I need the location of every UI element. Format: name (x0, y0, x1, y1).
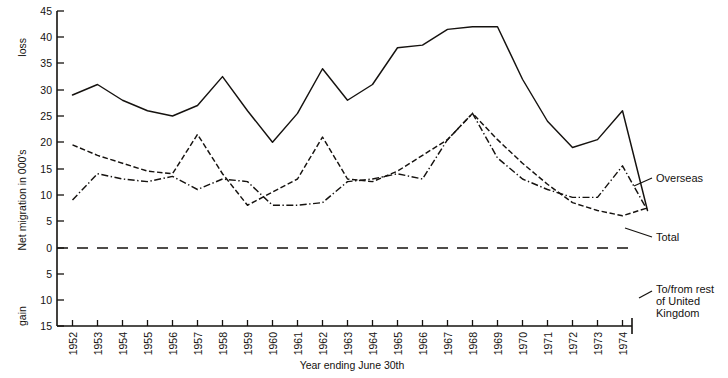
x-tick-label: 1967 (442, 332, 454, 356)
x-tick-label: 1966 (417, 332, 429, 356)
y-tick-label: 10 (40, 189, 52, 201)
chart-canvas: 45 40 35 30 25 20 15 10 5 0 5 10 15 loss… (0, 0, 728, 378)
x-tick-label: 1957 (192, 332, 204, 356)
x-tick-label: 1959 (242, 332, 254, 356)
annotation-total: Total (656, 231, 679, 243)
x-tick-label: 1974 (617, 332, 629, 356)
annotation-rest-of-uk-line1: To/from rest (656, 283, 714, 295)
x-tick-label: 1964 (367, 332, 379, 356)
x-tick-label: 1962 (317, 332, 329, 356)
x-tick-label: 1953 (92, 332, 104, 356)
y-tick-label: 30 (40, 84, 52, 96)
y-tick-label: 20 (40, 136, 52, 148)
y-tick-label: 35 (40, 57, 52, 69)
y-tick-marks (57, 11, 64, 326)
overseas-leader-line (634, 178, 652, 186)
y-tick-labels: 45 40 35 30 25 20 15 10 5 0 5 10 15 (40, 5, 52, 332)
y-tick-label: 45 (40, 5, 52, 17)
y-tick-label: 40 (40, 31, 52, 43)
x-tick-label: 1956 (167, 332, 179, 356)
annotation-overseas: Overseas (656, 172, 704, 184)
x-tick-label: 1955 (142, 332, 154, 356)
x-tick-label: 1958 (217, 332, 229, 356)
x-tick-label: 1963 (342, 332, 354, 356)
x-tick-label: 1970 (517, 332, 529, 356)
migration-line-chart: 45 40 35 30 25 20 15 10 5 0 5 10 15 loss… (0, 0, 728, 378)
series-line-overseas (73, 113, 648, 215)
x-tick-label: 1968 (467, 332, 479, 356)
x-tick-label: 1969 (492, 332, 504, 356)
x-axis-title: Year ending June 30th (300, 359, 405, 371)
y-axis-loss-label: loss (16, 38, 28, 57)
x-tick-label: 1952 (67, 332, 79, 356)
rest-of-uk-leader-line (639, 291, 652, 298)
x-tick-label: 1961 (292, 332, 304, 356)
y-tick-label: 5 (46, 215, 52, 227)
y-tick-label: 15 (40, 163, 52, 175)
y-tick-label: 0 (46, 242, 52, 254)
y-tick-label: 5 (46, 268, 52, 280)
x-tick-label: 1973 (592, 332, 604, 356)
total-leader-line (625, 228, 652, 237)
series-line-total (73, 27, 648, 211)
series-line-rest-of-uk (73, 113, 648, 210)
x-tick-label: 1954 (117, 332, 129, 356)
x-tick-label: 1971 (542, 332, 554, 356)
y-axis-gain-label: gain (16, 306, 28, 326)
annotation-rest-of-uk-line2: of United (656, 295, 700, 307)
y-tick-label: 10 (40, 294, 52, 306)
y-axis-title: Net migration in 000's (16, 149, 28, 250)
y-tick-label: 25 (40, 110, 52, 122)
annotation-rest-of-uk-line3: Kingdom (656, 307, 699, 319)
x-tick-label: 1965 (392, 332, 404, 356)
x-tick-label: 1960 (267, 332, 279, 356)
x-tick-label: 1972 (567, 332, 579, 356)
y-tick-label: 15 (40, 320, 52, 332)
